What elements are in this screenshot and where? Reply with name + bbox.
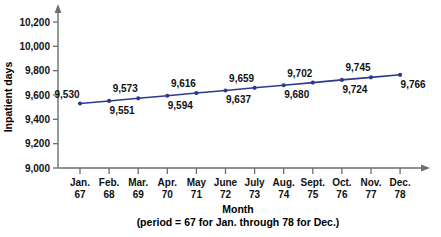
y-tick-label: 10,200 <box>19 17 50 28</box>
data-point-label: 9,702 <box>287 68 312 79</box>
x-tick-period-label: 74 <box>278 189 290 200</box>
data-point <box>107 99 111 103</box>
x-tick-month-label: Feb. <box>99 177 120 188</box>
data-point-label: 9,659 <box>229 73 254 84</box>
data-point-label: 9,745 <box>345 62 370 73</box>
x-axis-ticks: Jan.67Feb.68Mar.69Apr.70May71June72July7… <box>70 168 411 200</box>
data-point-label: 9,637 <box>226 94 251 105</box>
y-tick-label: 9,200 <box>25 138 50 149</box>
x-tick-month-label: Aug. <box>273 177 295 188</box>
x-axis: Jan.67Feb.68Mar.69Apr.70May71June72July7… <box>58 165 430 200</box>
data-point-label: 9,766 <box>401 79 426 90</box>
x-tick-period-label: 72 <box>220 189 232 200</box>
x-tick-month-label: Sept. <box>301 177 326 188</box>
data-point-label: 9,551 <box>110 105 135 116</box>
x-tick-month-label: Apr. <box>158 177 178 188</box>
x-tick-month-label: Nov. <box>361 177 382 188</box>
data-point-label: 9,594 <box>168 100 193 111</box>
x-tick-month-label: June <box>214 177 238 188</box>
data-series: 9,5309,5519,5739,5949,6169,6379,6599,680… <box>54 62 426 116</box>
data-point-label: 9,724 <box>342 84 367 95</box>
x-tick-month-label: July <box>245 177 265 188</box>
x-tick-period-label: 70 <box>162 189 174 200</box>
data-point <box>311 80 315 84</box>
x-tick-period-label: 76 <box>336 189 348 200</box>
x-tick-month-label: Jan. <box>70 177 90 188</box>
y-tick-label: 9,600 <box>25 90 50 101</box>
x-tick-period-label: 73 <box>249 189 261 200</box>
data-point <box>398 73 402 77</box>
data-point-label: 9,530 <box>54 89 79 100</box>
y-axis-ticks: 9,0009,2009,4009,6009,80010,00010,200 <box>19 17 58 174</box>
y-axis-title: Inpatient days <box>2 62 14 133</box>
data-point <box>165 94 169 98</box>
x-tick-month-label: Mar. <box>128 177 148 188</box>
data-point <box>340 78 344 82</box>
x-axis-arrow-icon <box>421 165 430 172</box>
x-tick-period-label: 77 <box>365 189 377 200</box>
data-point <box>136 96 140 100</box>
chart-svg: Inpatient days 9,0009,2009,4009,6009,800… <box>0 0 441 237</box>
data-point <box>78 101 82 105</box>
x-tick-month-label: May <box>187 177 207 188</box>
data-point <box>369 75 373 79</box>
x-tick-period-label: 69 <box>133 189 145 200</box>
x-tick-period-label: 67 <box>74 189 86 200</box>
x-tick-period-label: 68 <box>104 189 116 200</box>
y-tick-label: 10,000 <box>19 41 50 52</box>
y-tick-label: 9,400 <box>25 114 50 125</box>
x-tick-month-label: Oct. <box>332 177 352 188</box>
data-point-label: 9,573 <box>113 83 138 94</box>
y-tick-label: 9,000 <box>25 163 50 174</box>
data-point <box>282 83 286 87</box>
data-point <box>253 86 257 90</box>
x-axis-subtitle: (period = 67 for Jan. through 78 for Dec… <box>137 216 340 228</box>
data-point <box>223 88 227 92</box>
y-axis-arrow-icon <box>55 4 62 13</box>
x-tick-period-label: 71 <box>191 189 203 200</box>
x-axis-title: Month <box>222 203 254 215</box>
data-point-label: 9,680 <box>284 89 309 100</box>
line-chart: Inpatient days 9,0009,2009,4009,6009,800… <box>0 0 441 237</box>
x-tick-period-label: 78 <box>395 189 407 200</box>
y-tick-label: 9,800 <box>25 65 50 76</box>
x-tick-month-label: Dec. <box>390 177 411 188</box>
data-point <box>194 91 198 95</box>
data-point-label: 9,616 <box>171 78 196 89</box>
x-tick-period-label: 75 <box>307 189 319 200</box>
